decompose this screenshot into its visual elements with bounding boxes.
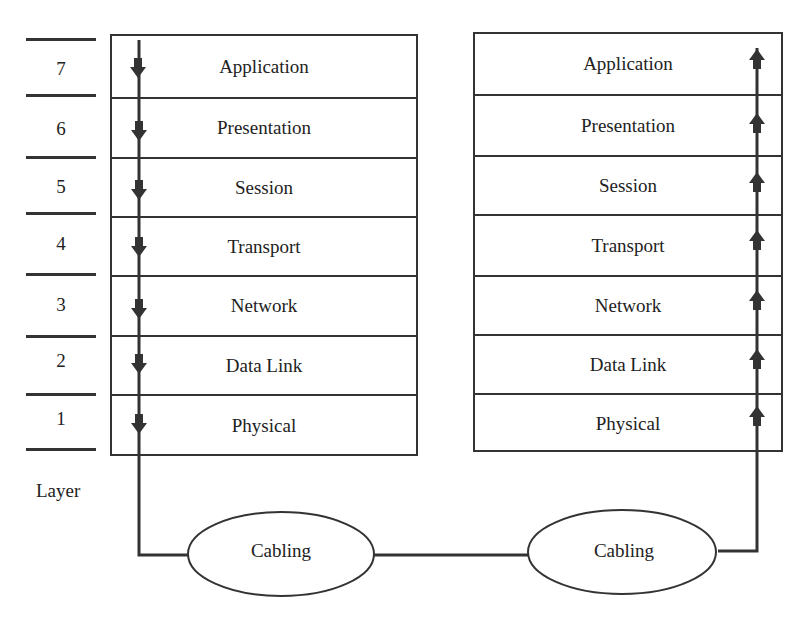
cabling-label-right: Cabling	[564, 540, 684, 562]
arrow-down-icon	[130, 58, 146, 78]
arrow-down-icon	[131, 121, 147, 141]
cabling-label-left: Cabling	[221, 540, 341, 562]
arrow-down-icon	[131, 299, 147, 319]
arrow-down-icon	[131, 354, 147, 374]
arrow-up-icon	[749, 230, 765, 250]
arrow-up-icon	[749, 113, 765, 133]
arrow-up-icon	[749, 349, 765, 369]
arrow-down-icon	[131, 180, 147, 200]
arrow-up-icon	[749, 290, 765, 310]
arrow-down-icon	[131, 414, 147, 434]
arrow-up-icon	[749, 172, 765, 192]
flow-lines	[0, 0, 808, 627]
sender-flow-line	[139, 40, 188, 555]
arrow-up-icon	[749, 406, 765, 426]
arrow-down-icon	[131, 237, 147, 257]
arrow-up-icon	[749, 49, 765, 69]
